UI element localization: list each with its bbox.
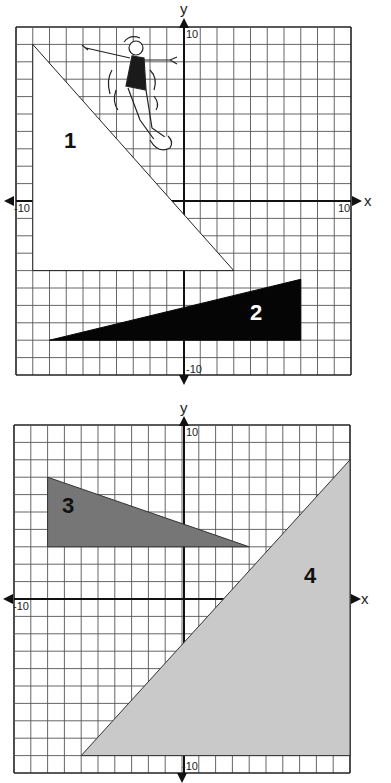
arrow-left-icon	[4, 196, 14, 206]
y-min-tick-label: -10	[186, 364, 202, 375]
x-axis-label: x	[361, 591, 369, 606]
arrow-left-icon	[3, 594, 13, 604]
x-axis-label: x	[364, 193, 372, 208]
arrow-up-icon	[179, 18, 189, 28]
triangle-4-label: 4	[304, 565, 316, 587]
graph-1-canvas	[0, 0, 391, 390]
y-max-tick-label: 10	[186, 29, 198, 40]
triangle-1-label: 1	[64, 130, 76, 152]
triangle-2-label: 2	[250, 302, 262, 324]
coordinate-graph-1: y x 10 -10 10 -10 1 2	[0, 0, 391, 390]
y-axis-label: y	[180, 400, 188, 415]
y-max-tick-label: 10	[186, 427, 198, 438]
triangle-3-label: 3	[62, 495, 74, 517]
x-max-tick-label: 10	[338, 203, 350, 214]
arrow-down-icon	[179, 375, 189, 385]
coordinate-graph-2: y x 10 -10 -10 3 4	[0, 395, 391, 783]
arrow-right-icon	[351, 594, 361, 604]
arrow-right-icon	[352, 196, 362, 206]
y-axis-label: y	[180, 1, 188, 16]
arrow-up-icon	[179, 416, 189, 426]
graph-2-canvas	[0, 395, 391, 783]
y-min-tick-label: -10	[182, 761, 198, 772]
arrow-down-icon	[177, 773, 187, 783]
x-min-tick-label: -10	[13, 601, 29, 612]
x-min-tick-label: -10	[14, 203, 30, 214]
